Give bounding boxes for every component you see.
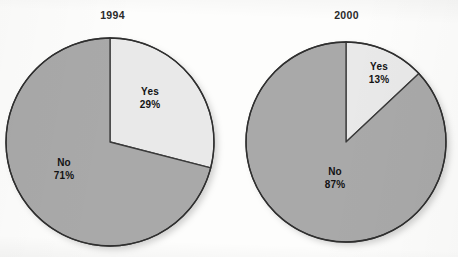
pie-label-2000-no: No 87% — [307, 166, 363, 191]
pie-label-2000-yes-percent: 13% — [351, 74, 407, 87]
pie-label-2000-no-name: No — [328, 166, 342, 177]
pie-chart-figure: 1994 Yes 29% No 71% 2000 — [0, 0, 458, 257]
pie-2000 — [229, 0, 458, 257]
pie-label-1994-no-percent: 71% — [36, 170, 92, 183]
chart-panel-2000: 2000 Yes 13% No 87% — [229, 0, 458, 257]
pie-1994 — [0, 0, 229, 257]
pie-label-2000-yes: Yes 13% — [351, 61, 407, 86]
pie-label-1994-no-name: No — [57, 157, 71, 168]
pie-label-1994-yes-percent: 29% — [122, 99, 178, 112]
pie-label-1994-no: No 71% — [36, 157, 92, 182]
pie-label-1994-yes: Yes 29% — [122, 86, 178, 111]
chart-panel-1994: 1994 Yes 29% No 71% — [0, 0, 229, 257]
pie-label-1994-yes-name: Yes — [141, 86, 159, 97]
pie-label-2000-no-percent: 87% — [307, 179, 363, 192]
pie-label-2000-yes-name: Yes — [370, 61, 388, 72]
